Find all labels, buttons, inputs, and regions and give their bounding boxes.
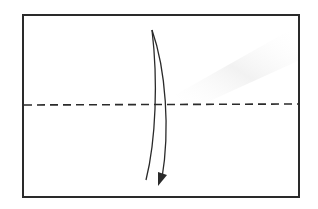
valley-fold-line [24, 104, 298, 105]
paper-shading [175, 30, 300, 110]
arrow-head-icon [158, 172, 167, 186]
paper-rectangle [23, 15, 299, 197]
fold-diagram [0, 0, 318, 209]
